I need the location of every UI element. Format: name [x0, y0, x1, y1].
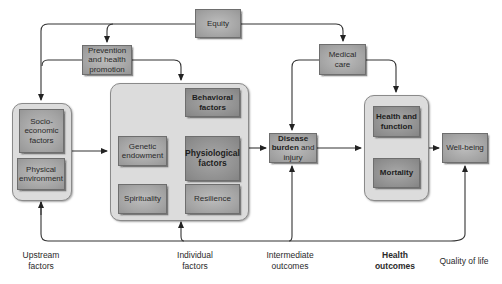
medical-care-box: Medicalcare — [319, 44, 366, 75]
stage-label-intermediate: Intermediateoutcomes — [250, 250, 330, 272]
genetic-endowment-box: Geneticendowment — [118, 136, 167, 166]
physical-environment-box: Physicalenvironment — [17, 158, 65, 190]
spirituality-box: Spirituality — [118, 184, 167, 214]
mortality-box: Mortality — [373, 158, 420, 188]
equity-box: Equity — [195, 9, 241, 38]
socioeconomic-factors-box: Socio-economicfactors — [19, 109, 64, 153]
disease-burden-injury-box: Diseaseburden andinjury — [269, 133, 317, 163]
stage-label-quality-of-life: Quality of life — [428, 256, 500, 267]
stage-label-health-outcomes: Healthoutcomes — [370, 250, 420, 272]
stage-label-individual: Individualfactors — [160, 250, 230, 272]
physiological-factors-box: Physiologicalfactors — [185, 136, 240, 181]
resilience-box: Resilience — [185, 184, 240, 214]
well-being-box: Well-being — [442, 133, 488, 163]
prevention-health-promotion-box: Preventionand healthpromotion — [82, 45, 132, 75]
health-and-function-box: Health andfunction — [373, 106, 420, 137]
behavioral-factors-box: Behavioralfactors — [185, 88, 240, 117]
stage-label-upstream: Upstreamfactors — [12, 250, 70, 272]
